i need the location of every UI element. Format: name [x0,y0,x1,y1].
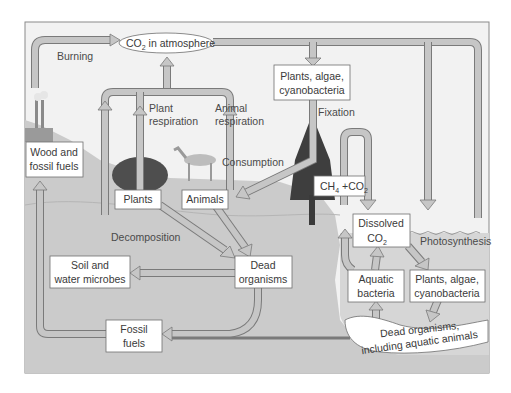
svg-text:Plants, algae,: Plants, algae, [280,70,344,82]
svg-text:organisms: organisms [239,273,287,285]
svg-text:Plants, algae,: Plants, algae, [415,273,479,285]
node-wood-fossil-fuels: Wood and fossil fuels [26,142,83,177]
svg-text:water microbes: water microbes [53,273,125,285]
svg-text:Soil and: Soil and [71,259,109,271]
svg-text:Aquatic: Aquatic [358,273,393,285]
node-atmosphere: CO2 in atmosphere [119,33,215,53]
svg-text:Wood and: Wood and [30,146,78,158]
svg-text:Animals: Animals [186,193,223,205]
label-plant-respiration-1: Plant [149,102,173,114]
label-photosynthesis: Photosynthesis [420,235,491,247]
label-consumption: Consumption [222,156,284,168]
node-plants-algae-aquatic: Plants, algae, cyanobacteria [410,270,485,302]
svg-text:Dissolved: Dissolved [358,217,404,229]
carbon-cycle-diagram: CO2 in atmosphere Plants, algae, cyanoba… [0,0,511,393]
node-ch4-co2: CH4 +CO2 [314,176,368,196]
label-animal-respiration-1: Animal [215,102,247,114]
node-aquatic-bacteria: Aquatic bacteria [348,270,404,302]
svg-text:cyanobacteria: cyanobacteria [414,287,480,299]
svg-text:Plants: Plants [123,193,152,205]
label-animal-respiration-2: respiration [215,115,264,127]
svg-text:CH4 +CO2: CH4 +CO2 [320,180,368,194]
svg-text:Dead: Dead [250,259,275,271]
node-animals: Animals [182,190,228,209]
node-dead-organisms: Dead organisms [235,256,292,288]
svg-text:fuels: fuels [123,337,145,349]
svg-text:fossil fuels: fossil fuels [29,160,78,172]
node-fossil-fuels: Fossil fuels [106,320,162,352]
svg-text:cyanobacteria: cyanobacteria [279,84,345,96]
node-plants-algae-top: Plants, algae, cyanobacteria [274,65,350,100]
label-plant-respiration-2: respiration [149,115,198,127]
node-soil-microbes: Soil and water microbes [50,256,130,288]
label-fixation: Fixation [318,106,355,118]
node-plants: Plants [115,190,161,209]
svg-text:CO2 in atmosphere: CO2 in atmosphere [126,37,215,51]
node-dissolved-co2: Dissolved CO2 [353,214,410,247]
label-burning: Burning [57,50,93,62]
svg-text:Fossil: Fossil [120,323,147,335]
label-decomposition: Decomposition [111,231,181,243]
svg-text:bacteria: bacteria [357,287,395,299]
